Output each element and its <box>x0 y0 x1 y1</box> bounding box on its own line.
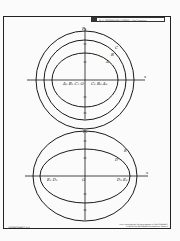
diagram-bottom <box>25 131 148 221</box>
bottom-x-axis-label: x <box>146 170 149 175</box>
credit-text: To be used with the Revised Edition of C… <box>119 223 168 228</box>
diagram-bottom-labels: P₂ x E D O E₁ D₁ D₂ E₂ <box>46 129 149 182</box>
diagram-top <box>27 28 145 129</box>
top-curve-label-a: A <box>105 59 109 64</box>
bottom-curve-label-e: E <box>123 148 127 153</box>
credit-line-2: & PHYSICAL GEOGRAPHY by Arthur N. Strahl… <box>119 225 168 227</box>
top-y-axis-label: P₂ <box>81 26 87 31</box>
ellipse-diagrams: P₂ x C B A A₁ B₁ C₁ O C₂ B₂ A₂ P₂ x E <box>0 0 180 241</box>
top-curve-label-b: B <box>110 52 114 57</box>
page: W. H. FREEMAN AND COMPANY • San Francisc… <box>0 0 180 241</box>
transparency-label: TRANSPARENCY 5-2 <box>8 226 30 229</box>
bottom-right-points: D₂ E₂ <box>116 177 128 182</box>
top-right-axis-points: C₂ B₂ A₂ <box>91 81 108 86</box>
top-left-axis-points: A₁ B₁ C₁ O <box>62 81 85 86</box>
bottom-left-points: E₁ D₁ <box>46 177 58 182</box>
top-x-axis-label: x <box>144 74 147 79</box>
bottom-y-axis-label: P₂ <box>82 129 88 134</box>
top-curve-label-c: C <box>115 45 118 50</box>
